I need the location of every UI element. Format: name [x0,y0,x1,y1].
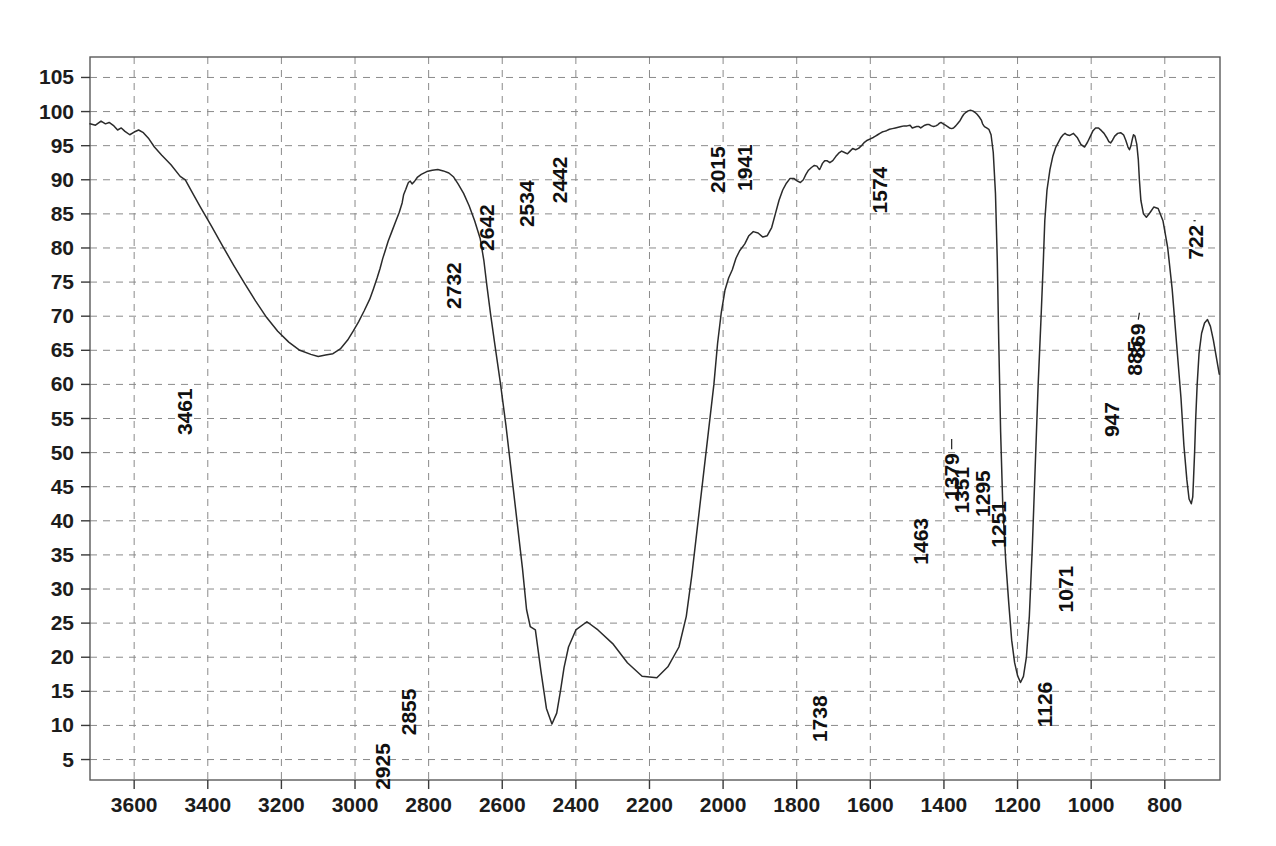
peak-label-1251: 1251 [987,501,1010,548]
y-tick-label: 55 [51,407,75,430]
peak-label-722: 722 [1184,225,1207,260]
peak-label-3461: 3461 [173,388,196,435]
x-tick-label: 1000 [1068,793,1115,816]
y-tick-label: 80 [51,236,74,259]
y-tick-label: 70 [51,304,74,327]
x-tick-label: 1600 [847,793,894,816]
peak-label-869: 869 [1126,324,1149,359]
peak-label-2015: 2015 [706,146,729,193]
peak-label-2534: 2534 [515,180,538,227]
x-tick-label: 1400 [921,793,968,816]
ir-spectrum-chart: 5101520253035404550556065707580859095100… [0,0,1276,846]
x-tick-label: 2400 [553,793,600,816]
peak-label-1351: 1351 [950,467,973,514]
y-tick-label: 75 [51,270,75,293]
x-tick-label: 2800 [405,793,452,816]
y-tick-label: 45 [51,475,75,498]
y-tick-label: 30 [51,577,74,600]
x-tick-label: 2000 [700,793,747,816]
peak-label-1126: 1126 [1033,682,1056,728]
x-tick-label: 2600 [479,793,526,816]
x-tick-label: 800 [1147,793,1182,816]
axis-ticks [81,77,1165,789]
y-tick-label: 35 [51,543,75,566]
x-axis-tick-labels: 3600340032003000280026002400220020001800… [111,793,1183,816]
y-tick-label: 90 [51,168,74,191]
peak-label-2732: 2732 [442,262,465,309]
x-tick-label: 3000 [332,793,379,816]
y-tick-label: 50 [51,441,74,464]
y-tick-label: 60 [51,372,74,395]
x-tick-label: 3600 [111,793,158,816]
peak-label-1463: 1463 [909,518,932,565]
peak-label-1738: 1738 [808,695,831,742]
y-axis-tick-labels: 5101520253035404550556065707580859095100… [39,65,74,770]
y-tick-label: 85 [51,202,75,225]
peak-label-2855: 2855 [397,688,420,735]
y-tick-label: 20 [51,645,74,668]
y-tick-label: 40 [51,509,74,532]
spectrum-plot: 5101520253035404550556065707580859095100… [0,0,1276,846]
y-tick-label: 65 [51,338,75,361]
x-tick-label: 3200 [258,793,305,816]
y-tick-label: 5 [62,748,74,771]
y-tick-label: 25 [51,611,75,634]
spectrum-trace [90,110,1219,724]
x-tick-label: 1200 [994,793,1041,816]
y-tick-label: 95 [51,134,75,157]
peak-label-1941: 1941 [733,144,756,191]
peak-label-1071: 1071 [1054,565,1077,612]
peak-leader-line-869 [1138,313,1139,320]
peak-label-2442: 2442 [548,156,571,203]
x-tick-label: 2200 [626,793,673,816]
peak-label-2925: 2925 [371,743,394,790]
peak-label-1574: 1574 [868,166,891,213]
peak-annotations: 3461292528552732264225342442201519411738… [173,144,1206,790]
x-tick-label: 3400 [184,793,231,816]
peak-label-947: 947 [1100,402,1123,437]
y-tick-label: 15 [51,679,75,702]
y-tick-label: 100 [39,100,74,123]
y-tick-label: 10 [51,713,74,736]
transmittance-curve [90,110,1219,724]
x-tick-label: 1800 [773,793,820,816]
peak-label-2642: 2642 [475,204,498,251]
y-tick-label: 105 [39,65,74,88]
